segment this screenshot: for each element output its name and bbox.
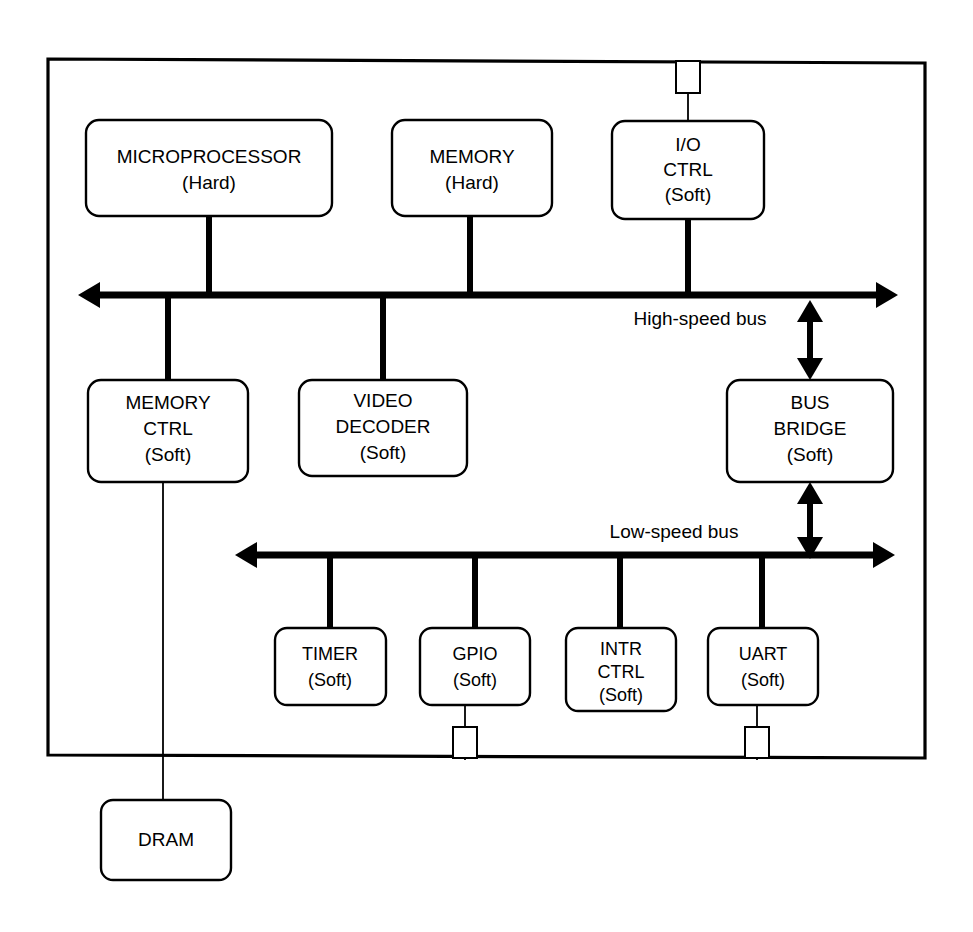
block-memory[interactable]: MEMORY (Hard) bbox=[392, 120, 552, 216]
pin-io-ctrl bbox=[676, 61, 700, 93]
low-speed-bus-label: Low-speed bus bbox=[610, 521, 739, 542]
block-bus-bridge-line1: BUS bbox=[790, 392, 829, 413]
high-speed-bus-arrow-right bbox=[876, 282, 898, 308]
block-intr-ctrl[interactable]: INTR CTRL (Soft) bbox=[566, 628, 676, 711]
low-speed-bus-arrow-left bbox=[235, 542, 257, 568]
block-memory-ctrl-line1: MEMORY bbox=[125, 392, 210, 413]
block-timer[interactable]: TIMER (Soft) bbox=[275, 628, 386, 705]
bus-bridge-upper-arrow-down bbox=[797, 358, 823, 380]
block-intr-ctrl-line2: CTRL bbox=[597, 662, 644, 682]
pin-gpio bbox=[453, 727, 477, 758]
soc-block-diagram: High-speed bus Low-speed bus bbox=[0, 0, 973, 932]
block-memory-rect[interactable] bbox=[392, 120, 552, 216]
block-dram[interactable]: DRAM bbox=[101, 800, 231, 880]
bus-bridge-lower-arrow-up bbox=[797, 482, 823, 504]
block-gpio-line2: (Soft) bbox=[453, 670, 497, 690]
bus-bridge-upper-arrow-up bbox=[797, 300, 823, 322]
block-video-decoder-line3: (Soft) bbox=[360, 442, 406, 463]
block-gpio-line1: GPIO bbox=[452, 644, 497, 664]
block-bus-bridge[interactable]: BUS BRIDGE (Soft) bbox=[727, 380, 893, 482]
block-memory-ctrl-line3: (Soft) bbox=[145, 444, 191, 465]
diagram-canvas: High-speed bus Low-speed bus bbox=[0, 0, 973, 932]
block-io-ctrl-line3: (Soft) bbox=[665, 184, 711, 205]
pin-uart bbox=[745, 727, 769, 758]
block-microprocessor-rect[interactable] bbox=[86, 120, 332, 216]
block-bus-bridge-line3: (Soft) bbox=[787, 444, 833, 465]
block-io-ctrl-line2: CTRL bbox=[663, 159, 713, 180]
block-memory-line2: (Hard) bbox=[445, 172, 499, 193]
block-dram-line1: DRAM bbox=[138, 829, 194, 850]
block-memory-ctrl-line2: CTRL bbox=[143, 418, 193, 439]
high-speed-bus-arrow-left bbox=[78, 282, 100, 308]
block-io-ctrl-line1: I/O bbox=[675, 134, 700, 155]
block-uart-line1: UART bbox=[739, 644, 788, 664]
block-io-ctrl[interactable]: I/O CTRL (Soft) bbox=[612, 121, 764, 219]
low-speed-bus-arrow-right bbox=[873, 542, 895, 568]
block-gpio[interactable]: GPIO (Soft) bbox=[420, 628, 530, 705]
block-video-decoder-line2: DECODER bbox=[335, 416, 430, 437]
block-microprocessor-line2: (Hard) bbox=[182, 172, 236, 193]
block-bus-bridge-line2: BRIDGE bbox=[774, 418, 847, 439]
block-timer-rect[interactable] bbox=[275, 628, 386, 705]
block-microprocessor[interactable]: MICROPROCESSOR (Hard) bbox=[86, 120, 332, 216]
block-timer-line2: (Soft) bbox=[308, 670, 352, 690]
block-video-decoder-line1: VIDEO bbox=[353, 390, 412, 411]
block-intr-ctrl-line3: (Soft) bbox=[599, 685, 643, 705]
high-speed-bus-label: High-speed bus bbox=[633, 308, 766, 329]
block-intr-ctrl-line1: INTR bbox=[600, 639, 642, 659]
block-uart-line2: (Soft) bbox=[741, 670, 785, 690]
block-gpio-rect[interactable] bbox=[420, 628, 530, 705]
block-video-decoder[interactable]: VIDEO DECODER (Soft) bbox=[299, 380, 467, 476]
block-microprocessor-line1: MICROPROCESSOR bbox=[117, 146, 302, 167]
block-uart-rect[interactable] bbox=[708, 628, 818, 705]
block-memory-line1: MEMORY bbox=[429, 146, 514, 167]
block-uart[interactable]: UART (Soft) bbox=[708, 628, 818, 705]
block-memory-ctrl[interactable]: MEMORY CTRL (Soft) bbox=[88, 380, 248, 482]
block-timer-line1: TIMER bbox=[302, 644, 358, 664]
